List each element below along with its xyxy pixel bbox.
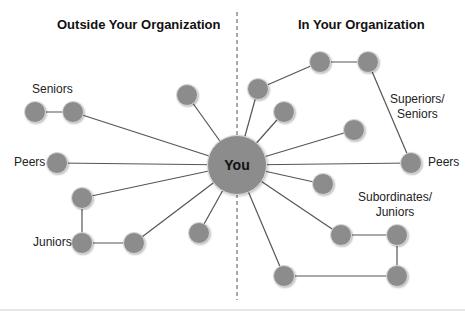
- heading-in-organization: In Your Organization: [298, 17, 425, 32]
- heading-outside-organization: Outside Your Organization: [57, 17, 220, 32]
- contact-node-l-senior-1: [24, 101, 46, 123]
- contact-node-l-senior-2: [62, 101, 84, 123]
- label-right-subordinates-line1: Subordinates/: [358, 190, 432, 205]
- contact-node-r-sub-3: [386, 265, 408, 287]
- contact-node-r-upper-1: [247, 78, 269, 100]
- label-right-subordinates: Subordinates/ Juniors: [358, 190, 432, 220]
- contact-node-l-junior-1: [71, 232, 93, 254]
- you-node: You: [207, 135, 267, 195]
- contact-node-r-mid-2: [343, 119, 365, 141]
- contact-node-r-upper-2: [309, 51, 331, 73]
- label-left-seniors: Seniors: [32, 82, 73, 97]
- contact-node-r-sub-4: [273, 265, 295, 287]
- label-right-subordinates-line2: Juniors: [358, 205, 432, 220]
- contact-node-r-upper-3: [357, 51, 379, 73]
- label-left-juniors: Juniors: [33, 235, 72, 250]
- contact-node-l-peer: [46, 152, 68, 174]
- label-right-superiors-line1: Superiors/: [390, 92, 445, 107]
- contact-node-r-sub-1: [330, 224, 352, 246]
- contact-node-l-junior-top: [71, 187, 93, 209]
- contact-node-l-top: [176, 84, 198, 106]
- contact-node-r-sub-2: [386, 224, 408, 246]
- contact-node-l-junior-2: [123, 232, 145, 254]
- label-left-peers: Peers: [14, 155, 45, 170]
- contact-node-r-lower-1: [312, 173, 334, 195]
- label-right-superiors-line2: Seniors: [390, 107, 445, 122]
- contact-node-l-bottom: [188, 222, 210, 244]
- bottom-rule: [0, 309, 465, 311]
- label-right-superiors: Superiors/ Seniors: [390, 92, 445, 122]
- contact-node-r-mid-1: [273, 101, 295, 123]
- contact-node-r-peer: [400, 152, 422, 174]
- you-label: You: [224, 157, 249, 173]
- label-right-peers: Peers: [428, 155, 459, 170]
